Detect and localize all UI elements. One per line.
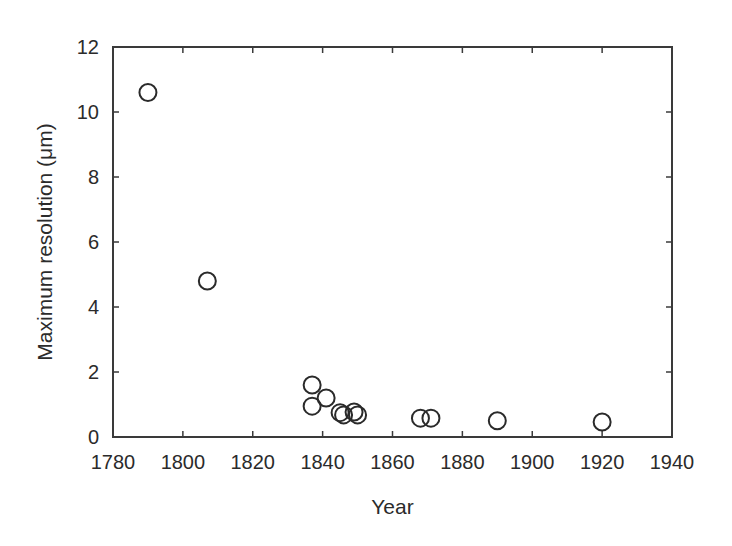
x-tick-label: 1900: [510, 451, 555, 473]
x-tick-label: 1780: [91, 451, 136, 473]
y-tick-label: 12: [77, 36, 99, 58]
x-axis-label: Year: [371, 495, 413, 518]
y-tick-label: 10: [77, 101, 99, 123]
x-tick-label: 1860: [370, 451, 415, 473]
x-tick-labels: 178018001820184018601880190019201940: [91, 451, 695, 473]
y-tick-label: 4: [88, 296, 99, 318]
y-tick-label: 2: [88, 361, 99, 383]
y-tick-label: 0: [88, 426, 99, 448]
y-tick-label: 6: [88, 231, 99, 253]
x-tick-label: 1940: [650, 451, 695, 473]
scatter-chart: 178018001820184018601880190019201940 024…: [0, 0, 732, 546]
x-tick-label: 1800: [161, 451, 206, 473]
x-tick-label: 1820: [231, 451, 276, 473]
y-axis-label: Maximum resolution (μm): [33, 123, 56, 360]
y-tick-label: 8: [88, 166, 99, 188]
x-tick-label: 1840: [300, 451, 345, 473]
x-tick-label: 1920: [580, 451, 625, 473]
x-tick-label: 1880: [440, 451, 485, 473]
